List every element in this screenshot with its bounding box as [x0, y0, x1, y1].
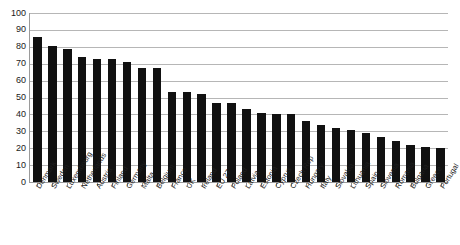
- x-tick-label: UK: [185, 177, 197, 190]
- y-tick-label: 70: [0, 59, 26, 68]
- bar: [123, 62, 131, 182]
- y-tick-label: 80: [0, 42, 26, 51]
- bar: [63, 49, 71, 183]
- y-tick-label: 50: [0, 93, 26, 102]
- bar: [108, 59, 116, 182]
- y-tick-label: 60: [0, 76, 26, 85]
- bar: [153, 68, 161, 182]
- y-tick-label: 0: [0, 178, 26, 187]
- bar: [33, 37, 41, 182]
- y-tick-label: 100: [0, 9, 26, 18]
- bar: [197, 94, 205, 182]
- y-tick-label: 10: [0, 161, 26, 170]
- y-tick-label: 30: [0, 127, 26, 136]
- y-tick-label: 20: [0, 144, 26, 153]
- x-axis: DenmarkSwedenLuxembourgNetherlandsAustri…: [29, 186, 454, 245]
- y-axis: 0102030405060708090100: [0, 0, 26, 190]
- y-tick-label: 40: [0, 110, 26, 119]
- y-tick-label: 90: [0, 25, 26, 34]
